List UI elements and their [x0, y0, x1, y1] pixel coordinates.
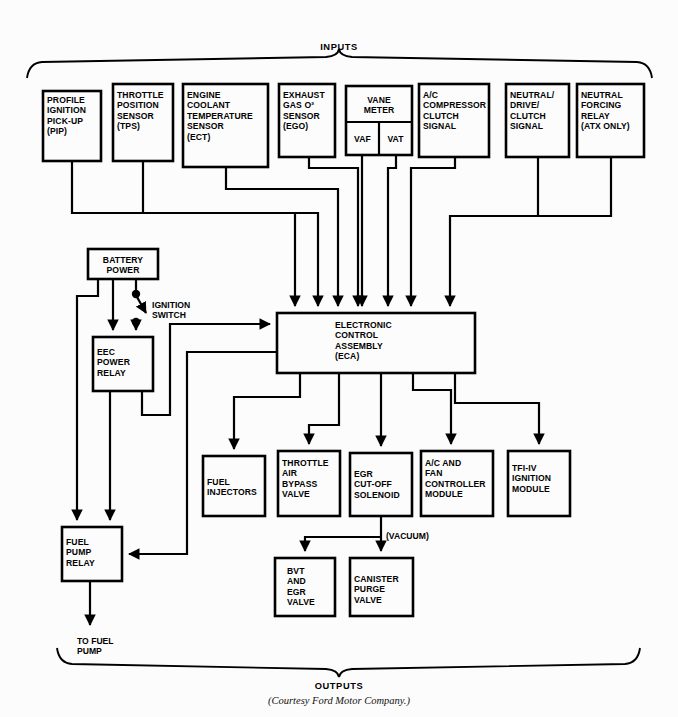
wire-ego-to-eca	[309, 157, 358, 306]
box-bvt-egr-valve	[275, 558, 335, 616]
box-egr-cut-off	[350, 453, 412, 516]
outputs-brace	[57, 648, 640, 677]
ignition-switch-contacts	[132, 290, 140, 326]
wire-vat-to-eca	[388, 155, 396, 306]
ignition-switch-label: IGNITION SWITCH	[152, 300, 190, 321]
wire-ndc-to-eca	[450, 157, 538, 306]
wire-eca-to-throttle-air-bypass	[309, 373, 339, 444]
vane-meter-dividers	[346, 122, 412, 155]
inputs-brace-label: INPUTS	[299, 42, 379, 52]
courtesy-caption: (Courtesy Ford Motor Company.)	[0, 695, 678, 706]
wire-eca-to-ac-fan-controller	[413, 373, 451, 444]
outputs-brace-label: OUTPUTS	[299, 681, 379, 691]
wire-vacuum-branch-to-bvt	[305, 537, 381, 551]
box-nfr	[577, 84, 644, 157]
wire-tps-to-eca	[143, 161, 318, 306]
ignition-switch-dot-upper	[132, 290, 140, 298]
box-throttle-air-bypass	[278, 451, 340, 516]
box-tfi-iv	[508, 451, 570, 516]
wire-nfr-to-rail	[538, 157, 611, 216]
eec-system-diagram: INPUTS OUTPUTS (Courtesy Ford Motor Comp…	[0, 0, 678, 717]
box-eec-relay	[93, 337, 153, 391]
wire-eca-to-fuel-pump-relay	[129, 352, 277, 554]
box-fuel-pump-relay	[62, 527, 122, 581]
box-canister-purge	[350, 558, 413, 616]
wire-ect-to-eca	[226, 167, 338, 306]
box-ac-fan-controller	[421, 451, 493, 516]
box-ac-clutch	[419, 84, 489, 157]
box-tps	[113, 84, 173, 161]
ignition-switch-dot-lower	[132, 318, 140, 326]
wire-ignition-switch-blade	[137, 297, 146, 313]
to-fuel-pump-label: TO FUEL PUMP	[77, 636, 114, 657]
box-battery-power	[88, 249, 158, 279]
box-ect	[183, 84, 268, 167]
vacuum-annotation: (VACUUM)	[386, 531, 429, 541]
box-fuel-injectors	[203, 456, 265, 516]
box-ndc	[506, 84, 569, 157]
inputs-brace	[27, 49, 652, 78]
box-eca	[277, 313, 475, 373]
wire-eca-to-tfi-iv	[455, 373, 539, 444]
box-ego	[279, 84, 335, 157]
wire-pip-to-eca	[72, 161, 295, 306]
wire-eec-relay-to-eca	[142, 324, 270, 415]
wire-eca-to-fuel-injectors	[234, 373, 300, 449]
diagram-canvas	[0, 0, 678, 717]
box-pip	[43, 91, 101, 161]
wire-battery-to-fuel-pump-relay	[77, 279, 98, 520]
wire-ac-clutch-to-eca	[411, 157, 455, 306]
